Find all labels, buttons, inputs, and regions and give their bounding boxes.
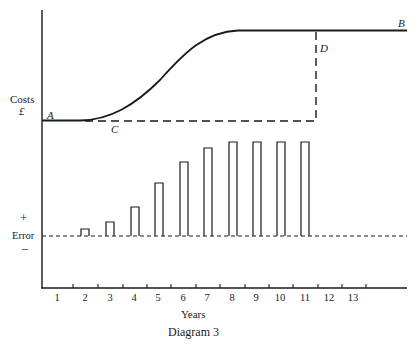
point-label-c: C xyxy=(111,124,118,135)
x-tick-label: 6 xyxy=(180,293,185,304)
x-tick-label: 1 xyxy=(54,293,59,304)
y-axis-unit: £ xyxy=(19,106,25,117)
error-bar-year-9 xyxy=(253,142,261,236)
x-tick-label: 11 xyxy=(300,293,310,304)
y-axis-label: Costs xyxy=(10,94,34,105)
x-tick-label: 4 xyxy=(131,293,136,304)
error-label: Error xyxy=(12,231,34,242)
error-bar-year-11 xyxy=(301,142,309,236)
minus-sign: − xyxy=(21,243,28,256)
point-label-a: A xyxy=(47,110,54,121)
point-label-d: D xyxy=(320,43,328,54)
x-tick-label: 7 xyxy=(204,293,209,304)
x-tick-label: 13 xyxy=(348,293,359,304)
error-bar-year-6 xyxy=(180,162,188,236)
diagram-caption: Diagram 3 xyxy=(168,326,219,338)
error-bars xyxy=(81,142,309,236)
error-bar-year-3 xyxy=(106,222,114,236)
error-bar-year-5 xyxy=(155,183,163,236)
x-tick-label: 12 xyxy=(324,293,335,304)
error-bar-year-4 xyxy=(131,207,139,236)
error-bar-year-8 xyxy=(229,142,237,236)
x-tick-label: 10 xyxy=(275,293,286,304)
actual-cost-curve xyxy=(42,31,407,121)
x-tick-label: 2 xyxy=(82,293,87,304)
estimate-dashed-line xyxy=(85,31,316,121)
x-tick-label: 9 xyxy=(253,293,258,304)
x-axis-label: Years xyxy=(181,309,206,320)
error-bar-year-2 xyxy=(81,229,89,236)
plus-sign: + xyxy=(20,211,27,224)
x-tick-label: 8 xyxy=(229,293,234,304)
error-bar-year-10 xyxy=(277,142,285,236)
point-label-b: B xyxy=(398,18,405,29)
error-bar-year-7 xyxy=(204,148,212,236)
x-tick-label: 5 xyxy=(155,293,160,304)
x-tick-label: 3 xyxy=(107,293,112,304)
